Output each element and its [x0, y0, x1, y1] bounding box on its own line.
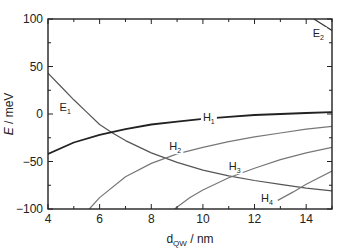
series-labels: E1E2H1H2H3H4 — [58, 27, 327, 206]
x-tick-label: 8 — [148, 212, 155, 226]
x-tick-label: 10 — [196, 212, 210, 226]
series-h3-line — [175, 147, 333, 209]
y-axis-label: E / meV — [2, 93, 16, 136]
x-tick-label: 6 — [96, 212, 103, 226]
x-tick-label: 12 — [248, 212, 262, 226]
chart: 468101214−100−50050100 E1E2H1H2H3H4 dQW … — [0, 0, 344, 250]
x-tick-label: 4 — [45, 212, 52, 226]
y-tick-label: −100 — [16, 202, 43, 216]
y-tick-label: 100 — [23, 12, 43, 26]
y-tick-label: 0 — [36, 107, 43, 121]
x-tick-label: 14 — [300, 212, 314, 226]
axis-ticks: 468101214−100−50050100 — [16, 12, 332, 226]
x-axis-label: dQW / nm — [166, 232, 213, 248]
y-tick-label: −50 — [23, 155, 44, 169]
plot-lines — [48, 19, 332, 209]
y-tick-label: 50 — [30, 60, 44, 74]
series-h2-line — [89, 126, 332, 209]
series-h1-line — [48, 112, 332, 154]
